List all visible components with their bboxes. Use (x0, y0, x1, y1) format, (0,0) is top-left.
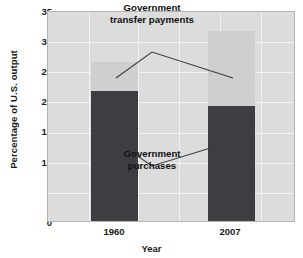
annotation-transfer-payments: Government transfer payments (76, 2, 228, 26)
vertical-gridline-2 (138, 12, 139, 221)
gridline-20 (48, 102, 294, 103)
annotation-transfer-line1: Government (76, 2, 228, 14)
annotation-purchases-line1: Government (76, 148, 228, 160)
plot-area (47, 11, 295, 222)
gridline-25 (48, 72, 294, 73)
bar-1960-transfers (91, 62, 138, 91)
x-tick-2007: 2007 (195, 226, 265, 237)
vertical-gridline-3 (179, 12, 180, 221)
stacked-bar-chart: Percentage of U.S. output 35 30 25 20 15… (0, 0, 303, 258)
gridline-15 (48, 133, 294, 134)
x-axis-title: Year (0, 243, 303, 254)
annotation-government-purchases: Government purchases (76, 148, 228, 172)
annotation-transfer-line2: transfer payments (76, 14, 228, 26)
vertical-gridline-1 (89, 12, 90, 221)
gridline-5 (48, 193, 294, 194)
x-tick-1960: 1960 (79, 226, 149, 237)
bar-2007 (208, 31, 255, 221)
annotation-purchases-line2: purchases (76, 160, 228, 172)
bar-2007-transfers (208, 31, 255, 106)
bar-1960 (91, 62, 138, 221)
y-axis-title: Percentage of U.S. output (8, 25, 19, 195)
gridline-30 (48, 42, 294, 43)
vertical-gridline-5 (261, 12, 262, 221)
